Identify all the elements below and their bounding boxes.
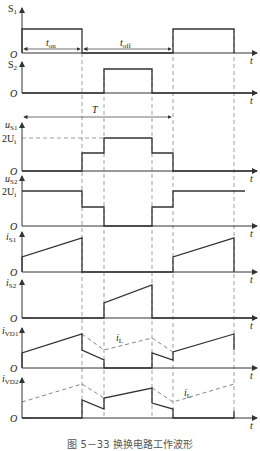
trace-us1 — [22, 123, 257, 171]
t-off-label: toff — [120, 38, 131, 50]
trace-is1 — [22, 232, 257, 272]
trace-us2 — [22, 176, 257, 226]
label-us1: uS1 — [5, 120, 17, 132]
level-2ui-us2: 2Ui — [2, 187, 16, 199]
t-axis-s2: t — [250, 96, 253, 106]
label-us2: uS2 — [5, 174, 17, 186]
label-is1: iS1 — [6, 232, 16, 244]
t-axis-ivd2: t — [250, 421, 253, 431]
t-axis-ivd1: t — [250, 371, 253, 381]
label-is2: iS2 — [6, 278, 16, 290]
label-ivd2: iVD2 — [2, 374, 18, 386]
il-label-ivd2: iL — [184, 388, 191, 400]
origin-s2: O — [10, 89, 17, 99]
period-label: T — [92, 105, 98, 115]
origin-is1: O — [10, 268, 17, 278]
t-axis-is2: t — [250, 321, 253, 331]
t-axis-us2: t — [250, 229, 253, 239]
figure-caption: 图 5－33 换换电路工作波形 — [0, 436, 260, 451]
trace-is2 — [22, 280, 257, 318]
level-2ui-us1: 2Ui — [2, 134, 16, 146]
label-ivd1: iVD1 — [2, 326, 18, 338]
origin-us2: O — [10, 222, 17, 232]
trace-s2 — [22, 62, 257, 93]
label-s1: S1 — [8, 4, 17, 16]
label-s2: S2 — [8, 60, 17, 72]
il-label-ivd1: iL — [116, 333, 123, 345]
t-on-label: ton — [46, 38, 56, 50]
origin-ivd2: O — [10, 414, 17, 424]
trace-ivd1 — [22, 328, 257, 368]
t-axis-us1: t — [250, 174, 253, 184]
t-axis-is1: t — [250, 275, 253, 285]
origin-ivd1: O — [10, 364, 17, 374]
timing-guides — [82, 29, 234, 418]
trace-ivd2 — [22, 378, 257, 418]
origin-is2: O — [10, 314, 17, 324]
t-axis-s1: t — [250, 56, 253, 66]
trace-s1 — [22, 8, 257, 53]
